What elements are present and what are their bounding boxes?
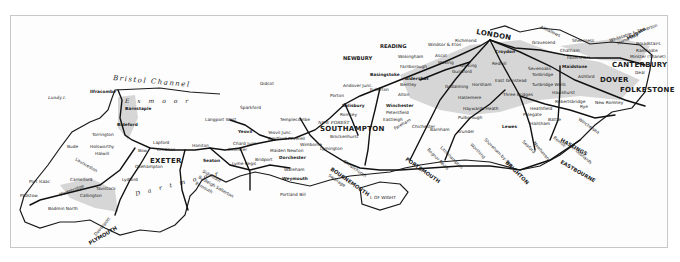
label-dover: DOVER	[600, 76, 629, 84]
label-didcot: Didcot	[260, 81, 274, 86]
label-lewes: Lewes	[502, 124, 518, 129]
label-lapford: Lapford	[153, 140, 170, 145]
label-worthing: Worthing	[469, 142, 486, 159]
label-dorking: Dorking	[460, 63, 477, 68]
label-ascot: Ascot	[435, 53, 447, 58]
label-shoreham: Shoreham-by-Sea	[483, 137, 514, 168]
label-lyme-regis: Lyme Regis	[232, 161, 257, 166]
label-arundel: Arundel	[457, 129, 474, 134]
label-lymington: Lymington	[320, 146, 343, 151]
label-langport-west: Langport West	[205, 117, 237, 122]
label-camelford: Camelford	[70, 177, 92, 182]
label-maiden-newton: Maiden Newton	[270, 148, 304, 153]
label-exmoor: E x m o o r	[124, 97, 191, 104]
label-haslemere: Haslemere	[458, 95, 481, 100]
label-three-bridges: Three Bridges	[502, 92, 534, 97]
label-ashford: Ashford	[578, 74, 595, 79]
label-southampton: SOUTHAMPTON	[320, 125, 385, 133]
label-okehampton: Okehampton	[135, 164, 163, 169]
label-yeovil: Yeovil	[237, 129, 253, 134]
label-sheerness: Sheerness	[572, 38, 595, 43]
label-bristol-channel: Bristol Channel	[112, 74, 191, 89]
label-porton: Porton	[330, 93, 344, 98]
label-eastleigh: Eastleigh	[383, 117, 403, 122]
label-chichester: Chichester	[412, 124, 435, 129]
label-launceston: Launceston	[75, 157, 99, 174]
label-hawkhurst: Hawkhurst	[552, 90, 575, 95]
label-bridport: Bridport	[255, 157, 273, 162]
label-reading: READING	[380, 43, 406, 49]
label-romsey: Romsey	[340, 112, 357, 117]
label-bideford: Bideford	[117, 122, 138, 127]
label-ilfracombe: Ilfracombe	[90, 89, 116, 94]
label-bude: Bude	[67, 144, 78, 149]
label-tavistock: Tavistock	[95, 186, 116, 191]
label-weymouth: Weymouth	[282, 176, 308, 181]
label-chard-junc: Chard Junc.	[233, 141, 258, 146]
label-holsworthy: Holsworthy	[90, 144, 115, 149]
label-templecombe: Templecombe	[279, 117, 310, 122]
label-richmond: Richmond	[455, 38, 477, 43]
label-bodmin-north: Bodmin North	[48, 206, 78, 211]
label-croydon: Croydon	[495, 49, 515, 54]
label-allhallows: Allhallows	[540, 24, 562, 38]
label-folkestone: FOLKESTONE	[620, 86, 675, 94]
label-bow: Bow	[138, 148, 148, 153]
label-sevenoaks: Sevenoaks	[528, 66, 552, 71]
label-winchelsea: Winchelsea	[577, 117, 600, 135]
label-deal: Deal	[635, 70, 645, 75]
label-port-isaac: Port Isaac	[29, 179, 51, 184]
label-padstow: Padstow	[20, 193, 38, 198]
label-new-romney: New Romney	[595, 100, 624, 105]
label-godalming: Godalming	[445, 84, 469, 89]
label-battle: Battle	[548, 117, 561, 122]
label-basingstoke: Basingstoke	[370, 72, 400, 77]
label-farnborough: Farnborough	[400, 64, 427, 69]
label-fullerton: Fullerton	[370, 87, 389, 92]
label-petersfield: Petersfield	[386, 110, 409, 115]
label-polegate: Polegate	[523, 112, 542, 117]
label-torrington: Torrington	[91, 132, 114, 137]
label-haywards-heath: Haywards Heath	[463, 106, 499, 111]
label-wokingham: Wokingham	[398, 54, 423, 59]
label-wimborne: Wimborne	[300, 142, 322, 147]
label-chatham: Chatham	[560, 48, 580, 53]
label-bentley: Bentley	[400, 82, 417, 87]
label-honiton: Honiton	[192, 143, 209, 148]
label-crediton: Crediton	[157, 147, 176, 152]
label-robertsbridge: Robertsbridge	[555, 99, 586, 104]
label-bradford-peverell: Bradford Peverell	[268, 136, 305, 141]
label-wareham: Wareham	[284, 167, 304, 172]
label-minster: Minster (Thanet)	[630, 54, 666, 59]
label-barnstaple: Barnstaple	[125, 106, 151, 111]
label-winchester: Winchester	[386, 103, 414, 108]
label-broadstairs: Broadstairs	[636, 41, 661, 46]
label-woking: Woking	[438, 60, 454, 65]
label-alton: Alton	[398, 92, 409, 97]
label-redhill: Redhill	[492, 61, 506, 66]
label-halwill: Halwill	[95, 151, 109, 156]
label-canterbury: CANTERBURY	[612, 61, 668, 69]
label-east-grinstead: East Grinstead	[495, 78, 527, 83]
label-lydford: Lydford	[122, 177, 138, 182]
label-pulborough: Pulborough	[458, 115, 483, 120]
label-rye: Rye	[580, 104, 588, 109]
label-callington: Callington	[80, 193, 102, 198]
label-lundy: Lundy I.	[47, 95, 66, 100]
label-newbury: NEWBURY	[343, 55, 372, 61]
label-andover: Andover Junc.	[343, 83, 373, 88]
railway-map: Bristol Channel E x m o o r D a r t m o …	[0, 0, 680, 262]
label-salisbury: Salisbury	[342, 103, 365, 108]
label-faversham: Faversham	[567, 55, 590, 60]
label-maidstone: Maidstone	[562, 64, 587, 69]
label-tonbridge: Tonbridge	[531, 72, 553, 77]
label-horsham: Horsham	[472, 82, 491, 87]
label-heathfield: Heathfield	[530, 106, 552, 111]
label-dorchester: Dorchester	[279, 155, 307, 160]
label-sparkford: Sparkford	[240, 105, 261, 110]
label-ramsgate: Ramsgate	[636, 48, 658, 53]
label-london: LONDON	[476, 28, 512, 42]
label-guildford: Guildford	[452, 69, 472, 74]
label-yeovil-junc: Yeovil Junc.	[267, 130, 292, 135]
label-wight: I. OF WIGHT	[370, 195, 396, 200]
